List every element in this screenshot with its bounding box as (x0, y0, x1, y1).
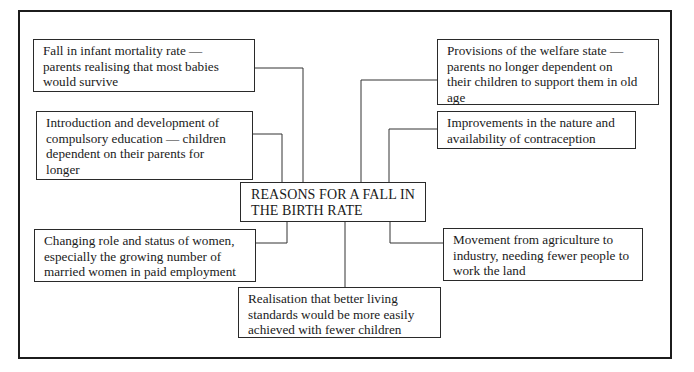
reason-text-line: Changing role and status of women, (44, 233, 246, 249)
reason-box-compulsory-education: Introduction and development of compulso… (36, 111, 253, 180)
reason-text-line: parents no longer dependent on (447, 59, 649, 75)
reason-text-line: age (447, 90, 649, 106)
reason-text-line: Provisions of the welfare state — (447, 43, 649, 59)
reason-text-line: industry, needing fewer people to (453, 248, 633, 264)
reason-text-line: availability of contraception (447, 131, 626, 147)
connector-welfare-state (361, 80, 437, 182)
reason-box-women-role: Changing role and status of women, espec… (34, 229, 256, 282)
connector-contraception (389, 129, 437, 182)
reason-text-line: Improvements in the nature and (447, 115, 626, 131)
reason-text-line: would survive (43, 74, 245, 90)
reason-box-contraception: Improvements in the nature and availabil… (437, 111, 636, 149)
connector-agriculture-industry (390, 221, 443, 243)
reason-box-welfare-state: Provisions of the welfare state — parent… (437, 39, 659, 105)
reason-text-line: Realisation that better living (248, 291, 431, 307)
reason-box-living-standards: Realisation that better living standards… (238, 287, 441, 338)
reason-text-line: standards would be more easily (248, 307, 431, 323)
central-title-line: THE BIRTH RATE (251, 203, 415, 219)
reason-text-line: married women in paid employment (44, 264, 246, 280)
connector-compulsory-education (252, 134, 282, 182)
reason-box-agriculture-industry: Movement from agriculture to industry, n… (443, 228, 643, 281)
reason-text-line: Movement from agriculture to (453, 232, 633, 248)
reason-text-line: achieved with fewer children (248, 322, 431, 338)
central-topic-box: REASONS FOR A FALL IN THE BIRTH RATE (240, 182, 426, 222)
reason-text-line: work the land (453, 263, 633, 279)
connector-women-role (255, 221, 287, 243)
central-title-line: REASONS FOR A FALL IN (251, 187, 415, 203)
reason-text-line: longer (46, 162, 243, 178)
reason-text-line: dependent on their parents for (46, 146, 243, 162)
reason-text-line: Introduction and development of (46, 115, 243, 131)
reason-text-line: Fall in infant mortality rate — (43, 43, 245, 59)
reason-box-infant-mortality: Fall in infant mortality rate — parents … (33, 39, 255, 92)
reason-text-line: their children to support them in old (447, 74, 649, 90)
connector-infant-mortality (254, 68, 303, 182)
reason-text-line: especially the growing number of (44, 249, 246, 265)
reason-text-line: compulsory education — children (46, 131, 243, 147)
reason-text-line: parents realising that most babies (43, 59, 245, 75)
